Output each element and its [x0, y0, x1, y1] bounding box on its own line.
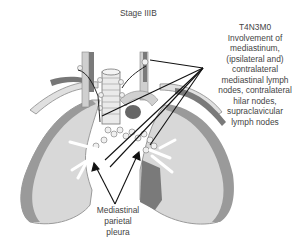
- annotation-line: nodes, contralateral: [205, 85, 305, 96]
- pulmonary-artery: [125, 105, 141, 119]
- right-neck-vessel: [82, 52, 89, 107]
- mediastinal-pleura-label: Mediastinal parietal pleura: [78, 205, 158, 237]
- stage-title: Stage IIIB: [120, 8, 157, 18]
- annotation-line: mediastinum,: [205, 43, 305, 54]
- annotation-line: Involvement of: [205, 33, 305, 44]
- annotation-line: lymph nodes: [205, 117, 305, 128]
- annotation-line: (ipsilateral and): [205, 54, 305, 65]
- trachea: [102, 69, 120, 124]
- annotation-line: contralateral: [205, 64, 305, 75]
- annotation-line: mediastinal lymph: [205, 75, 305, 86]
- annotation-line: hilar nodes,: [205, 96, 305, 107]
- label-line: pleura: [78, 227, 158, 238]
- pleura-arrows: [92, 152, 140, 204]
- tnm-code: T4N3M0: [205, 22, 305, 33]
- annotation-line: supraclavicular: [205, 106, 305, 117]
- tnm-annotation: T4N3M0 Involvement of mediastinum, (ipsi…: [205, 22, 305, 127]
- label-line: parietal: [78, 216, 158, 227]
- mediastinal-pleura-dark: [140, 160, 162, 210]
- label-line: Mediastinal: [78, 205, 158, 216]
